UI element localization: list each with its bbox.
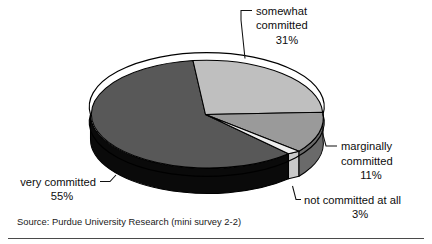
leader-line-not-committed [293, 186, 302, 200]
label-very-line1: very committed [20, 176, 96, 188]
pie-chart-figure: somewhat committed 31% marginally commit… [0, 0, 432, 244]
label-marginally-value: 11% [360, 169, 382, 181]
label-somewhat-committed: somewhat committed 31% [256, 5, 308, 46]
leader-line-somewhat [241, 11, 252, 59]
label-marginally-line1: marginally [341, 140, 392, 152]
leader-line-marginally [322, 131, 337, 146]
leader-line-very [100, 175, 116, 182]
label-very-value: 55% [51, 190, 73, 202]
pie-3d-body [89, 53, 324, 194]
label-somewhat-line1: somewhat [256, 5, 308, 17]
label-marginally-committed: marginally committed 11% [341, 140, 393, 181]
source-note: Source: Purdue University Research (mini… [17, 216, 241, 227]
label-not-committed-at-all: not committed at all 3% [304, 194, 401, 221]
label-very-committed: very committed 55% [20, 176, 96, 203]
chart-page: somewhat committed 31% marginally commit… [0, 0, 432, 244]
label-somewhat-line2: committed [256, 19, 308, 31]
label-not-committed-value: 3% [352, 208, 368, 220]
label-not-committed-line1: not committed at all [304, 194, 401, 206]
label-marginally-line2: committed [341, 155, 393, 167]
slice-top-somewhat-committed [193, 60, 323, 114]
slice-side-not-committed [289, 151, 300, 179]
label-somewhat-value: 31% [276, 34, 298, 46]
